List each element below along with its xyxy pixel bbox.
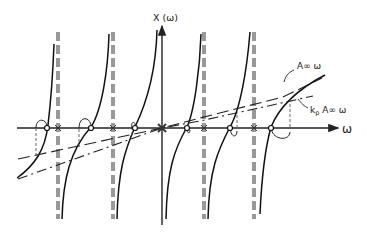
curve-branch (260, 75, 325, 214)
a-inf-omega-label: A∞ ω (297, 61, 321, 71)
zero-marker (89, 126, 94, 131)
label-leader (298, 99, 308, 108)
vertical-axis-label: X (ω) (153, 12, 178, 23)
a-inf-omega-line (18, 78, 322, 159)
asymptote (112, 32, 114, 219)
zero-marker (45, 126, 50, 131)
reactance-diagram: X (ω) ω A∞ ω kp A∞ ω (0, 0, 366, 233)
zero-marker (228, 126, 233, 131)
label-leader (284, 70, 294, 82)
asymptote (57, 32, 59, 219)
pole-asymptotes (57, 32, 255, 219)
kp-suffix: A∞ ω (319, 105, 346, 115)
shift-arrow (271, 128, 290, 138)
kp-a-inf-omega-label: kp A∞ ω (310, 105, 346, 117)
asymptote (253, 32, 255, 219)
zero-marker (133, 126, 138, 131)
zero-marker (185, 126, 190, 131)
curve-branch (62, 34, 109, 219)
asymptote (203, 32, 205, 219)
diagram-canvas: X (ω) ω A∞ ω kp A∞ ω (0, 0, 366, 233)
zero-marker (269, 126, 274, 131)
reactance-curve (17, 30, 325, 219)
horizontal-axis-label: ω (342, 122, 352, 136)
curve-branch (117, 30, 157, 219)
